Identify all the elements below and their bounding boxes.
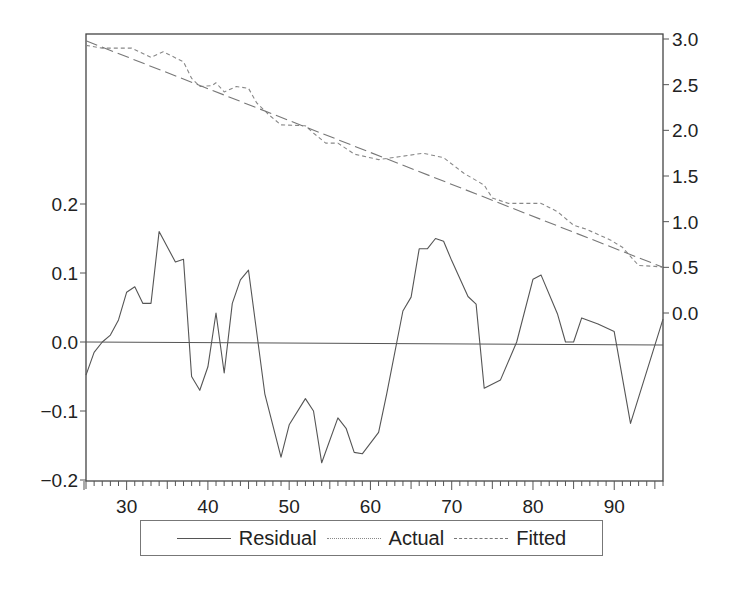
legend-label: Residual [239,527,317,550]
left-y-tick-label: 0.2 [52,194,78,215]
zero-line [86,342,663,345]
x-tick-label: 40 [197,496,218,517]
x-tick-label: 80 [522,496,543,517]
right-y-tick-label: 2.5 [672,75,698,96]
legend-label: Actual [389,527,445,550]
legend-label: Fitted [516,527,566,550]
solid-line-swatch-icon [177,538,231,539]
right-y-tick-label: 3.0 [672,29,698,50]
series-residual-line [86,232,663,463]
x-tick-label: 60 [360,496,381,517]
left-y-tick-label: −0.1 [40,401,78,422]
right-y-tick-label: 1.0 [672,212,698,233]
legend-item-fitted: Fitted [454,527,566,550]
legend-item-residual: Residual [177,527,317,550]
dashed-line-swatch-icon [454,538,508,539]
right-y-tick-label: 0.5 [672,257,698,278]
dotted-line-swatch-icon [327,538,381,539]
left-y-tick-label: −0.2 [40,470,78,491]
x-tick-label: 50 [279,496,300,517]
right-y-tick-label: 0.0 [672,303,698,324]
right-y-tick-label: 2.0 [672,120,698,141]
chart-legend: Residual Actual Fitted [140,520,603,556]
left-y-tick-label: 0.0 [52,332,78,353]
series-fitted-line [86,41,663,267]
x-tick-label: 30 [116,496,137,517]
legend-item-actual: Actual [327,527,445,550]
x-tick-label: 70 [441,496,462,517]
x-tick-label: 90 [604,496,625,517]
left-y-tick-label: 0.1 [52,263,78,284]
series-actual-line [86,45,663,267]
right-y-tick-label: 1.5 [672,166,698,187]
